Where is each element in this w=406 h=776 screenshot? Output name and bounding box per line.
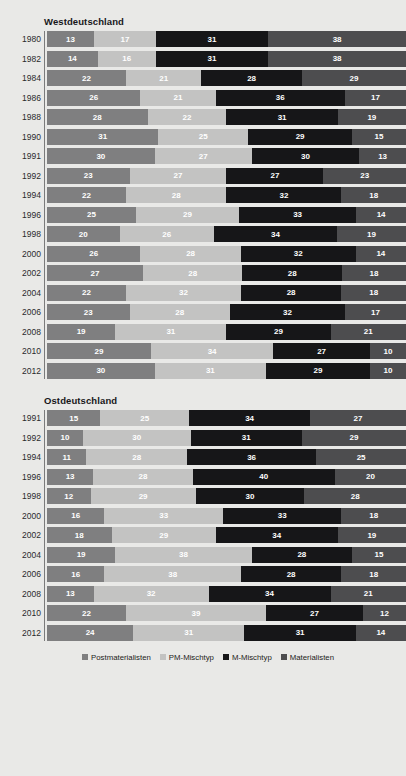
bar-segment-3: 17 (345, 304, 406, 320)
row-year-label: 2008 (5, 586, 41, 602)
stacked-bar: 30273013 (47, 148, 406, 164)
panel-westdeutschland: Westdeutschland 198013173138198214163138… (0, 16, 406, 379)
legend-swatch-icon (160, 654, 166, 660)
row-year-label: 2004 (5, 547, 41, 563)
bar-segment-1: 32 (126, 285, 241, 301)
chart-row: 199820263419 (47, 226, 406, 242)
stacked-bar: 29342710 (47, 343, 406, 359)
chart-row: 199210303129 (47, 430, 406, 446)
row-year-label: 2010 (5, 343, 41, 359)
chart-row: 199613284020 (47, 469, 406, 485)
chart-row: 199812293028 (47, 488, 406, 504)
bar-segment-2: 36 (216, 90, 345, 106)
bar-segment-3: 38 (268, 51, 406, 67)
stacked-bar: 13323421 (47, 586, 406, 602)
bar-segment-1: 38 (115, 547, 251, 563)
bar-segment-1: 16 (98, 51, 156, 67)
bar-segment-1: 22 (148, 109, 227, 125)
chart-row: 198013173138 (47, 31, 406, 47)
bar-segment-0: 28 (47, 109, 148, 125)
bar-segment-2: 31 (156, 51, 268, 67)
row-year-label: 1982 (5, 51, 41, 67)
bar-segment-1: 28 (93, 469, 193, 485)
bar-segment-3: 18 (341, 508, 406, 524)
row-year-label: 1990 (5, 129, 41, 145)
bar-segment-3: 15 (352, 129, 406, 145)
row-year-label: 1988 (5, 109, 41, 125)
bar-segment-1: 26 (120, 226, 214, 242)
bar-segment-2: 31 (226, 109, 337, 125)
stacked-bar: 18293419 (47, 527, 406, 543)
bar-segment-1: 38 (104, 566, 240, 582)
row-year-label: 1994 (5, 449, 41, 465)
bar-segment-1: 33 (104, 508, 222, 524)
stacked-bar: 10303129 (47, 430, 406, 446)
bar-segment-0: 26 (47, 90, 140, 106)
bar-segment-0: 16 (47, 566, 104, 582)
bar-segment-2: 34 (216, 527, 338, 543)
bar-segment-0: 24 (47, 625, 133, 641)
bar-segment-0: 27 (47, 265, 143, 281)
bar-segment-2: 28 (242, 265, 342, 281)
bar-segment-3: 19 (338, 109, 406, 125)
bar-segment-0: 14 (47, 51, 98, 67)
bar-segment-0: 22 (47, 187, 126, 203)
bar-segment-2: 28 (252, 547, 353, 563)
chart-row: 198626213617 (47, 90, 406, 106)
bar-segment-2: 36 (187, 449, 316, 465)
bar-segment-0: 11 (47, 449, 86, 465)
bar-segment-3: 19 (338, 527, 406, 543)
bar-segment-1: 25 (158, 129, 248, 145)
bar-segment-2: 34 (209, 586, 331, 602)
bar-segment-2: 28 (241, 285, 342, 301)
bar-segment-3: 18 (342, 265, 406, 281)
bar-segment-0: 30 (47, 148, 155, 164)
bar-segment-1: 31 (155, 363, 266, 379)
stacked-bar: 28223119 (47, 109, 406, 125)
bar-segment-0: 16 (47, 508, 104, 524)
bar-segment-1: 28 (130, 304, 231, 320)
stacked-bar: 30312910 (47, 363, 406, 379)
bar-segment-1: 17 (94, 31, 156, 47)
chart-row: 199223272723 (47, 168, 406, 184)
bar-segment-1: 29 (136, 207, 239, 223)
panel-ostdeutschland: Ostdeutschland 1991152534271992103031291… (0, 395, 406, 641)
chart-row: 201230312910 (47, 363, 406, 379)
chart-row: 200422322818 (47, 285, 406, 301)
row-year-label: 1980 (5, 31, 41, 47)
bar-segment-3: 19 (337, 226, 406, 242)
row-year-label: 1991 (5, 410, 41, 426)
stacked-bar: 16382818 (47, 566, 406, 582)
bar-segment-2: 27 (226, 168, 323, 184)
bar-segment-1: 28 (140, 246, 241, 262)
bar-segment-0: 26 (47, 246, 140, 262)
chart-legend: PostmaterialistenPM-MischtypM-MischtypMa… (0, 653, 406, 662)
stacked-bar: 25293314 (47, 207, 406, 223)
bar-segment-0: 13 (47, 469, 93, 485)
bar-segment-0: 20 (47, 226, 120, 242)
row-year-label: 2010 (5, 605, 41, 621)
row-year-label: 1994 (5, 187, 41, 203)
bar-segment-2: 30 (196, 488, 305, 504)
bar-segment-0: 30 (47, 363, 155, 379)
legend-item: PM-Mischtyp (160, 653, 214, 662)
bar-segment-0: 23 (47, 304, 130, 320)
bar-segment-1: 31 (133, 625, 244, 641)
row-year-label: 1998 (5, 488, 41, 504)
stacked-bar: 20263419 (47, 226, 406, 242)
legend-label: Postmaterialisten (91, 653, 151, 662)
bar-segment-1: 27 (130, 168, 227, 184)
bar-segment-3: 13 (359, 148, 406, 164)
bar-segment-3: 10 (370, 363, 406, 379)
legend-label: Materialisten (290, 653, 334, 662)
bar-segment-2: 31 (191, 430, 302, 446)
row-year-label: 1992 (5, 430, 41, 446)
row-year-label: 2012 (5, 625, 41, 641)
stacked-bar: 12293028 (47, 488, 406, 504)
bar-segment-2: 29 (226, 324, 330, 340)
stacked-bar: 31252915 (47, 129, 406, 145)
chart-row: 200218293419 (47, 527, 406, 543)
bar-segment-2: 34 (214, 226, 337, 242)
bar-segment-3: 25 (316, 449, 406, 465)
legend-item: Postmaterialisten (82, 653, 151, 662)
